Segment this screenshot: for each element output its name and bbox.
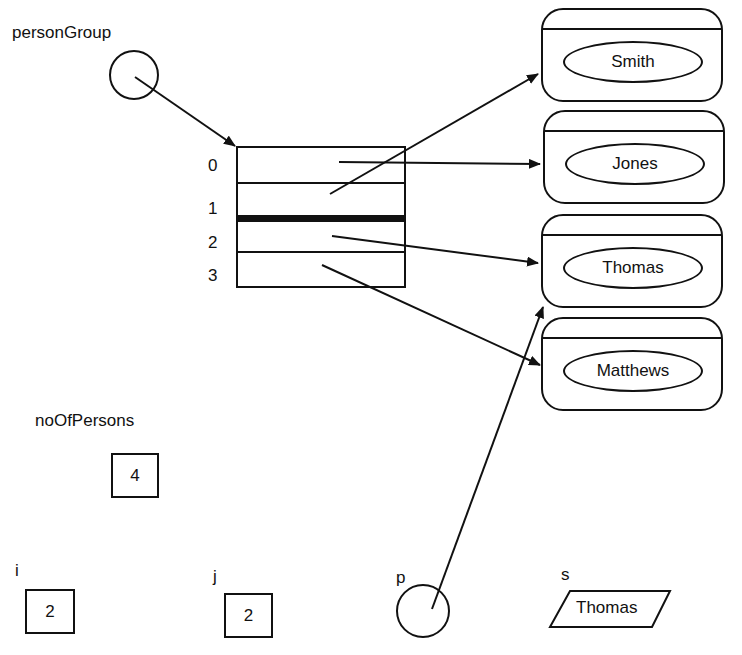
j-value-box: 2 <box>224 593 273 638</box>
person-object-matthews: Matthews <box>541 317 723 411</box>
arrow-personGroup-to-array <box>135 77 235 146</box>
object-header-divider <box>543 234 721 236</box>
array-index-0: 0 <box>208 157 217 174</box>
personGroup-label: personGroup <box>12 24 111 41</box>
name-field-oval: Matthews <box>563 350 703 392</box>
name-field-oval: Jones <box>565 143 705 185</box>
j-label: j <box>213 568 217 585</box>
array-null-cell-divider <box>238 215 404 222</box>
array-cell-divider <box>238 251 404 253</box>
s-label: s <box>561 566 570 583</box>
object-header-divider <box>543 337 721 339</box>
i-value-box: 2 <box>25 589 75 634</box>
object-header-divider <box>543 28 721 30</box>
array-cell-divider <box>238 182 404 184</box>
person-object-jones: Jones <box>543 110 725 204</box>
noOfPersons-value-box: 4 <box>111 453 159 498</box>
arrow-p-to-thomas <box>432 307 543 609</box>
i-label: i <box>15 562 19 579</box>
name-field-oval: Smith <box>563 41 703 83</box>
person-object-smith: Smith <box>541 8 723 102</box>
s-string-value: Thomas <box>576 599 637 616</box>
array-index-1: 1 <box>208 200 217 217</box>
p-label: p <box>396 569 405 586</box>
object-header-divider <box>545 130 723 132</box>
personGroup-reference-circle <box>110 51 158 99</box>
person-object-thomas: Thomas <box>541 214 723 308</box>
array-index-3: 3 <box>208 267 217 284</box>
noOfPersons-label: noOfPersons <box>35 412 134 429</box>
array-index-2: 2 <box>208 234 217 251</box>
person-array <box>236 146 406 288</box>
p-reference-circle <box>397 585 449 637</box>
name-field-oval: Thomas <box>563 247 703 289</box>
